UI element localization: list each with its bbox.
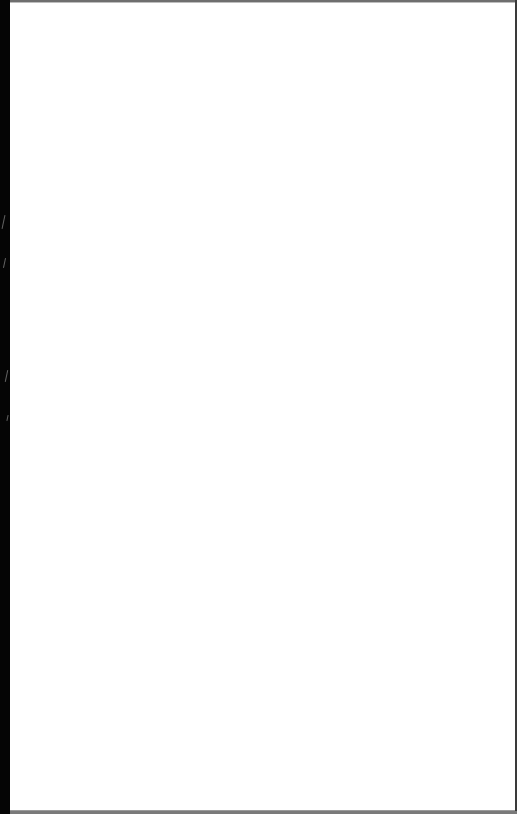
blank-content-area <box>10 2 515 811</box>
noise-streak <box>2 215 6 229</box>
noise-streak <box>6 415 8 421</box>
noise-streak <box>3 258 6 268</box>
left-edge-band <box>0 0 10 814</box>
noise-streak <box>5 370 8 382</box>
screen-frame <box>0 0 517 814</box>
